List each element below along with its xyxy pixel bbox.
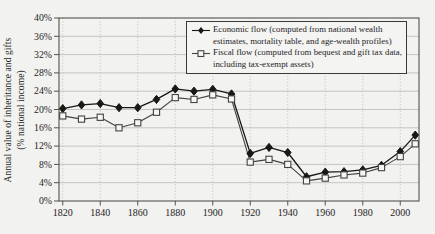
data-point-square	[135, 120, 141, 126]
y-tick-label: 32%	[34, 49, 52, 60]
x-tick-label: 1980	[353, 207, 373, 218]
data-point-diamond	[134, 104, 141, 112]
x-tick-label: 1900	[203, 207, 223, 218]
data-point-square	[60, 113, 66, 119]
y-tick-label: 24%	[34, 85, 52, 96]
data-point-diamond	[153, 95, 160, 103]
data-point-square	[266, 156, 272, 162]
y-tick-label: 36%	[34, 31, 52, 42]
data-point-square	[97, 114, 103, 120]
data-point-square	[247, 159, 253, 165]
y-tick-label: 40%	[34, 12, 52, 23]
data-point-square	[210, 92, 216, 98]
y-tick-label: 4%	[39, 177, 52, 188]
data-point-square	[191, 96, 197, 102]
x-tick-label: 1940	[278, 207, 298, 218]
data-point-square	[228, 96, 234, 102]
y-axis-title-line1: Annual value of inheritance and gifts	[2, 10, 15, 210]
data-point-diamond	[172, 85, 179, 93]
data-point-square	[172, 95, 178, 101]
data-point-diamond	[116, 104, 123, 112]
data-point-square	[397, 154, 403, 160]
open-square-icon	[191, 49, 213, 58]
y-tick-label: 20%	[34, 104, 52, 115]
x-tick-label: 1960	[315, 207, 335, 218]
data-point-square	[412, 141, 418, 147]
y-axis-title-line2: (% national income)	[15, 10, 28, 210]
x-tick-label: 1920	[240, 207, 260, 218]
y-tick-label: 12%	[34, 140, 52, 151]
y-tick-label: 0%	[39, 195, 52, 206]
x-tick-label: 1820	[53, 207, 73, 218]
x-tick-label: 1860	[128, 207, 148, 218]
data-point-square	[116, 125, 122, 131]
data-point-square	[341, 172, 347, 178]
data-point-square	[360, 170, 366, 176]
y-tick-label: 16%	[34, 122, 52, 133]
inheritance-flow-chart: 0%4%8%12%16%20%24%28%32%36%40%1820184018…	[0, 0, 435, 234]
legend-item-fiscal: Fiscal flow (computed from bequest and g…	[191, 47, 403, 70]
data-point-square	[303, 178, 309, 184]
data-point-square	[285, 161, 291, 167]
legend-label-economic: Economic flow (computed from national we…	[213, 24, 403, 47]
y-axis-title: Annual value of inheritance and gifts (%…	[2, 10, 30, 210]
filled-diamond-icon	[191, 26, 213, 35]
x-tick-label: 1880	[165, 207, 185, 218]
data-point-square	[378, 165, 384, 171]
y-tick-label: 28%	[34, 67, 52, 78]
data-point-diamond	[247, 149, 254, 157]
legend-label-fiscal: Fiscal flow (computed from bequest and g…	[213, 47, 403, 70]
x-tick-label: 1840	[90, 207, 110, 218]
data-point-diamond	[97, 99, 104, 107]
data-point-diamond	[191, 87, 198, 95]
data-point-square	[322, 175, 328, 181]
x-tick-label: 2000	[390, 207, 410, 218]
legend-item-economic: Economic flow (computed from national we…	[191, 24, 403, 47]
data-point-square	[78, 116, 84, 122]
y-tick-label: 8%	[39, 159, 52, 170]
data-point-square	[153, 109, 159, 115]
data-point-diamond	[59, 104, 66, 112]
legend-box: Economic flow (computed from national we…	[186, 21, 407, 74]
data-point-diamond	[78, 101, 85, 109]
data-point-diamond	[266, 143, 273, 151]
